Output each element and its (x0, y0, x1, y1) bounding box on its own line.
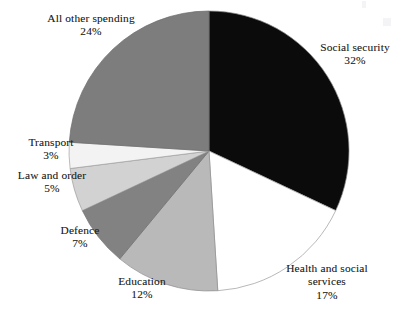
slice-label-health-and-social-services-text-1: Health and social (268, 262, 386, 275)
slice-label-law-and-order-percent: 5% (0, 182, 104, 195)
slice-label-transport-text: Transport (2, 136, 100, 149)
slice-label-transport: Transport 3% (2, 136, 100, 163)
slice-label-law-and-order: Law and order 5% (0, 169, 104, 196)
slice-label-transport-percent: 3% (2, 149, 100, 162)
slice-label-social-security-text: Social security (308, 41, 402, 54)
slice-label-defence-text: Defence (38, 224, 122, 237)
slice-label-health-and-social-services: Health and social services 17% (268, 262, 386, 302)
slice-label-defence-percent: 7% (38, 237, 122, 250)
slice-label-law-and-order-text: Law and order (0, 169, 104, 182)
slice-label-health-and-social-services-text-2: services (268, 275, 386, 288)
slice-label-education-text: Education (94, 275, 190, 288)
slice-label-social-security-percent: 32% (308, 54, 402, 67)
slice-label-education-percent: 12% (94, 288, 190, 301)
slice-label-all-other-spending-percent: 24% (18, 25, 164, 38)
slice-label-social-security: Social security 32% (308, 41, 402, 68)
slice-label-health-and-social-services-percent: 17% (268, 289, 386, 302)
slice-label-education: Education 12% (94, 275, 190, 302)
slice-label-all-other-spending-text: All other spending (18, 12, 164, 25)
pie-chart-figure: All other spending 24% Social security 3… (0, 0, 402, 316)
slice-label-defence: Defence 7% (38, 224, 122, 251)
slice-label-all-other-spending: All other spending 24% (18, 12, 164, 39)
